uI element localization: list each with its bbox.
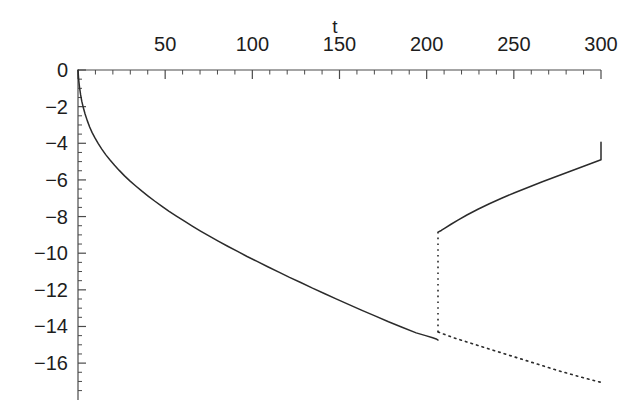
y-tick-label-neg10: −10 xyxy=(34,242,68,265)
series-upper-branch-solid xyxy=(438,142,601,232)
x-tick-label-200: 200 xyxy=(410,33,443,56)
x-tick-label-250: 250 xyxy=(497,33,530,56)
x-axis-title: t xyxy=(332,16,337,38)
figure-container: 50100150200250300 0−2−4−6−8−10−12−14−16 … xyxy=(0,0,642,410)
y-tick-label-neg4: −4 xyxy=(45,132,68,155)
series-main-branch-solid xyxy=(78,70,438,340)
x-tick-label-150: 150 xyxy=(323,33,356,56)
plot-canvas xyxy=(0,0,642,410)
x-tick-label-100: 100 xyxy=(236,33,269,56)
y-tick-label-neg8: −8 xyxy=(45,205,68,228)
y-tick-label-neg2: −2 xyxy=(45,95,68,118)
y-tick-label-neg14: −14 xyxy=(34,315,68,338)
x-axis-ticks xyxy=(78,70,601,79)
axis-group xyxy=(78,70,601,400)
y-tick-label-neg12: −12 xyxy=(34,278,68,301)
y-tick-label-0: 0 xyxy=(57,59,68,82)
series-lower-branch-dotted xyxy=(438,332,601,382)
data-series-group xyxy=(78,70,601,382)
y-tick-label-neg16: −16 xyxy=(34,352,68,375)
y-tick-label-neg6: −6 xyxy=(45,168,68,191)
y-axis-ticks xyxy=(78,70,86,391)
x-tick-label-50: 50 xyxy=(154,33,176,56)
x-tick-label-300: 300 xyxy=(584,33,617,56)
